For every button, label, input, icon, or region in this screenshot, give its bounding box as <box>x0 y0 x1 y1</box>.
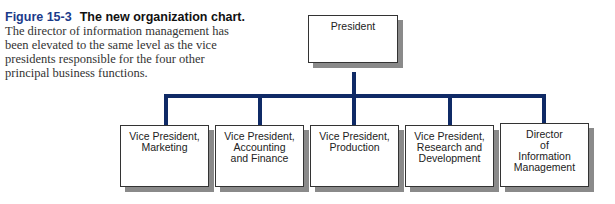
org-box-label: Marketing <box>121 142 208 153</box>
figure-number: Figure 15-3 <box>5 10 72 24</box>
org-box-label: and Finance <box>216 153 303 164</box>
connector-child-5 <box>542 94 546 123</box>
org-box-director-information-management: Director of Information Management <box>500 123 589 187</box>
connector-child-2 <box>258 94 262 125</box>
org-box-label: Production <box>311 142 398 153</box>
figure-caption: Figure 15-3The new organization chart. T… <box>5 10 275 80</box>
caption-heading: Figure 15-3The new organization chart. <box>5 10 275 24</box>
caption-line: principal business functions. <box>5 66 275 80</box>
caption-line: been elevated to the same level as the v… <box>5 38 275 52</box>
caption-line: presidents responsible for the four othe… <box>5 52 275 66</box>
figure-title: The new organization chart. <box>80 10 245 24</box>
org-box-vp-research-development: Vice President, Research and Development <box>405 125 494 187</box>
connector-child-4 <box>448 94 452 125</box>
org-box-label: Management <box>501 162 588 173</box>
org-box-vp-marketing: Vice President, Marketing <box>120 125 209 187</box>
connector-child-1 <box>164 94 168 125</box>
connector-root-stem <box>352 72 356 126</box>
org-box-president: President <box>308 15 398 63</box>
org-box-label: President <box>309 21 397 32</box>
org-box-vp-accounting-finance: Vice President, Accounting and Finance <box>215 125 304 187</box>
connector-horizontal-bar <box>164 94 546 98</box>
org-box-vp-production: Vice President, Production <box>310 125 399 187</box>
caption-line: The director of information management h… <box>5 24 275 38</box>
org-box-label: Development <box>406 153 493 164</box>
